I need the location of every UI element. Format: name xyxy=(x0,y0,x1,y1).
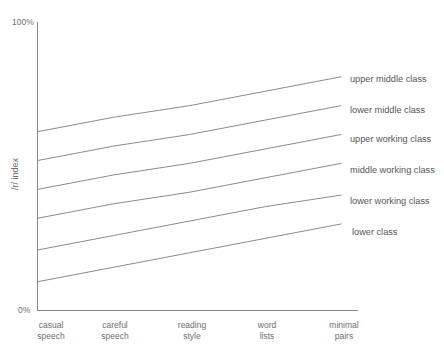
x-axis-tick-reading-style-line2: style xyxy=(183,331,201,341)
series-line-middle-working-class xyxy=(38,163,341,218)
x-axis-tick-word-lists-line2: lists xyxy=(260,331,275,341)
x-axis-tick-minimal-pairs-line1: minimal xyxy=(329,320,358,330)
y-axis-title: /r/ index xyxy=(10,157,20,190)
x-axis-tick-careful-speech-line2: speech xyxy=(101,331,129,341)
series-label-lower-class: lower class xyxy=(352,227,398,237)
series-line-lower-class xyxy=(38,224,341,282)
x-axis-tick-casual-speech-line1: casual xyxy=(39,320,64,330)
x-axis-tick-careful-speech-line1: careful xyxy=(102,320,128,330)
line-chart-canvas: 100% 0% /r/ index upper middle class low… xyxy=(0,0,444,349)
y-axis-min-label: 0% xyxy=(18,305,31,315)
series-line-lower-middle-class xyxy=(38,106,341,161)
series-label-lower-middle-class: lower middle class xyxy=(350,105,425,115)
x-axis-tick-word-lists-line1: word xyxy=(257,320,277,330)
x-axis-tick-minimal-pairs-line2: pairs xyxy=(335,331,353,341)
series-line-upper-middle-class xyxy=(38,77,341,132)
series-label-lower-working-class: lower working class xyxy=(350,196,430,206)
x-axis-tick-reading-style-line1: reading xyxy=(178,320,207,330)
series-label-upper-middle-class: upper middle class xyxy=(350,74,427,84)
x-axis-tick-casual-speech-line2: speech xyxy=(37,331,65,341)
series-label-upper-working-class: upper working class xyxy=(350,134,432,144)
chart-container: 100% 0% /r/ index upper middle class low… xyxy=(0,0,444,349)
series-line-lower-working-class xyxy=(38,195,341,250)
series-label-middle-working-class: middle working class xyxy=(350,165,435,175)
y-axis-max-label: 100% xyxy=(12,17,34,27)
series-line-upper-working-class xyxy=(38,135,341,190)
